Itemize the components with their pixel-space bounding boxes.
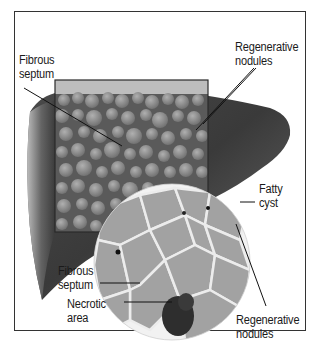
- label-necrotic-area: Necrotic area: [67, 297, 106, 325]
- label-fatty-cyst: Fatty cyst: [259, 182, 283, 210]
- label-regenerative-nodules-bottom: Regenerative nodules: [236, 313, 299, 341]
- label-regenerative-nodules-top: Regenerative nodules: [235, 40, 298, 68]
- label-fibrous-septum-top: Fibrous septum: [19, 53, 54, 81]
- label-fibrous-septum-bottom: Fibrous septum: [58, 264, 93, 292]
